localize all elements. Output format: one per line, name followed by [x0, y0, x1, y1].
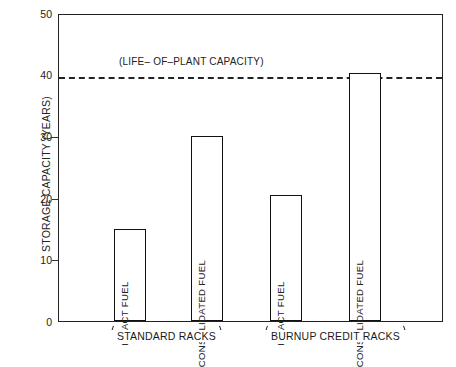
y-tick-label-50: 50 [26, 9, 52, 20]
group-label-burnup-credit-racks: BURNUP CREDIT RACKS [258, 330, 413, 342]
bar-standard-intact-fuel[interactable]: INTACT FUEL [114, 229, 146, 321]
bar-label-standard-consolidated-fuel: CONSOLIDATED FUEL [197, 260, 207, 367]
bar-label-burnup-consolidated-fuel: CONSOLIDATED FUEL [355, 260, 365, 367]
y-tick-label-0: 0 [26, 317, 52, 328]
life-of-plant-capacity-label: (LIFE– OF–PLANT CAPACITY) [117, 56, 266, 67]
y-tick-label-20: 20 [26, 194, 52, 205]
y-tick-label-30: 30 [26, 132, 52, 143]
bar-burnup-consolidated-fuel[interactable]: CONSOLIDATED FUEL [349, 73, 381, 321]
group-label-standard-racks: STANDARD RACKS [104, 330, 229, 342]
y-tick-label-10: 10 [26, 255, 52, 266]
bar-burnup-intact-fuel[interactable]: INTACT FUEL [270, 195, 302, 321]
plot-area: (LIFE– OF–PLANT CAPACITY) INTACT FUEL CO… [58, 14, 443, 322]
life-of-plant-capacity-line [59, 77, 442, 79]
y-axis-title: STORAGE CAPACITY (YEARS) [40, 64, 52, 284]
bar-standard-consolidated-fuel[interactable]: CONSOLIDATED FUEL [191, 136, 223, 321]
bar-chart-figure: STORAGE CAPACITY (YEARS) 50 40 30 20 10 … [0, 0, 456, 367]
y-tick-label-40: 40 [26, 70, 52, 81]
